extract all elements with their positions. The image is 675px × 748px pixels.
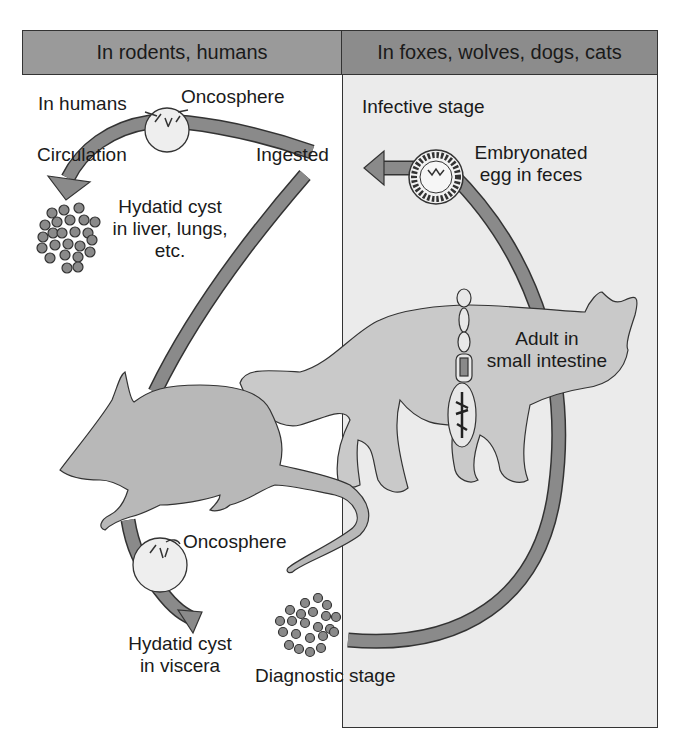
label-adult-small-intestine: Adult in small intestine bbox=[472, 328, 622, 372]
label-diagnostic-stage: Diagnostic stage bbox=[255, 665, 395, 687]
label-embryonated-egg: Embryonated egg in feces bbox=[466, 142, 596, 186]
label-infective-stage: Infective stage bbox=[362, 96, 485, 118]
label-in-humans: In humans bbox=[38, 93, 127, 115]
embryonated-egg-icon bbox=[409, 150, 463, 204]
oncosphere-bottom-icon bbox=[133, 538, 187, 592]
arrow-head-icon bbox=[178, 610, 202, 633]
label-hydatid-liver: Hydatid cyst in liver, lungs, etc. bbox=[100, 196, 240, 262]
label-ingested: Ingested bbox=[256, 144, 329, 166]
label-oncosphere-bottom: Oncosphere bbox=[183, 531, 287, 553]
arrow-head-icon bbox=[364, 151, 384, 185]
arrow-head-icon bbox=[48, 176, 90, 200]
hydatid-cyst-cluster-icon bbox=[37, 203, 100, 273]
definitive-host-silhouette bbox=[240, 292, 637, 492]
label-oncosphere-top: Oncosphere bbox=[181, 86, 285, 108]
oncosphere-top-icon bbox=[145, 108, 189, 152]
label-circulation: Circulation bbox=[37, 144, 127, 166]
label-hydatid-viscera: Hydatid cyst in viscera bbox=[110, 633, 250, 677]
diagnostic-eggs-cluster-icon bbox=[276, 594, 341, 657]
